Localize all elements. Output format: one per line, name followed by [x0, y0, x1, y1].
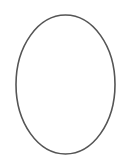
diagram-canvas	[0, 0, 120, 168]
background	[0, 0, 120, 168]
